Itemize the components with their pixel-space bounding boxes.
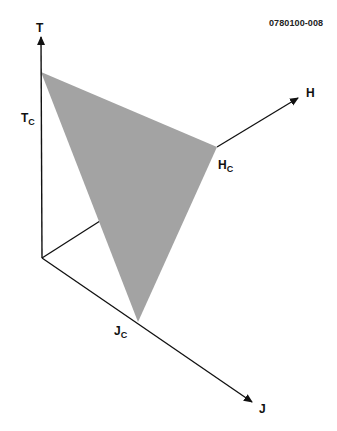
h-axis-line: [217, 98, 298, 147]
j-critical-label: JC: [114, 325, 127, 340]
t-critical-label: TC: [21, 112, 35, 127]
critical-surface-triangle: [41, 72, 217, 322]
critical-surface-diagram: 0780100-008 T TC H HC JC J: [0, 0, 337, 431]
t-axis-line: [41, 37, 42, 258]
h-axis-line-hidden: [42, 221, 100, 258]
h-axis-label: H: [306, 87, 315, 99]
t-axis-label: T: [36, 22, 43, 34]
diagram-canvas: [0, 0, 337, 431]
j-axis-label: J: [259, 403, 266, 415]
figure-id: 0780100-008: [269, 18, 323, 28]
h-critical-label: HC: [218, 159, 233, 174]
